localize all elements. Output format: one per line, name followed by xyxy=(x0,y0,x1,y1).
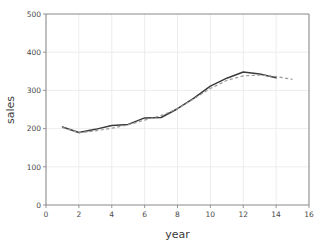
y-tick-label: 0 xyxy=(36,201,41,210)
x-tick-label: 12 xyxy=(238,210,248,219)
y-tick-label: 500 xyxy=(27,10,42,19)
x-tick-labels-group: 0246810121416 xyxy=(44,210,314,219)
x-tick-label: 8 xyxy=(175,210,180,219)
x-tick-label: 6 xyxy=(142,210,147,219)
y-tick-label: 100 xyxy=(27,163,42,172)
series-line-sales xyxy=(62,72,276,132)
x-axis-title: year xyxy=(165,228,190,241)
y-axis-title: sales xyxy=(4,96,17,124)
x-tick-label: 4 xyxy=(109,210,114,219)
y-tick-label: 200 xyxy=(27,124,42,133)
chart-canvas: 0246810121416 0100200300400500 year sale… xyxy=(0,0,322,245)
y-tick-label: 400 xyxy=(27,48,42,57)
y-tick-label: 300 xyxy=(27,86,42,95)
x-tick-label: 16 xyxy=(304,210,314,219)
x-tick-label: 10 xyxy=(206,210,216,219)
x-tick-label: 14 xyxy=(271,210,281,219)
x-tick-label: 2 xyxy=(76,210,81,219)
sales-line-chart: 0246810121416 0100200300400500 year sale… xyxy=(0,0,322,245)
tickmarks-group xyxy=(43,14,309,208)
x-tick-label: 0 xyxy=(44,210,49,219)
y-tick-labels-group: 0100200300400500 xyxy=(27,10,42,210)
